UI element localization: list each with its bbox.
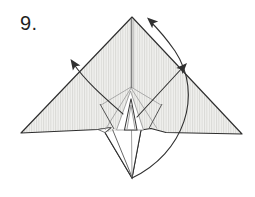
origami-step-diagram: 9. xyxy=(0,0,255,197)
left-arrowhead-icon xyxy=(71,59,81,71)
tail-flap xyxy=(105,130,141,179)
origami-figure xyxy=(0,0,255,197)
sweep-arrowhead-icon xyxy=(147,18,158,29)
tail-center-line xyxy=(132,129,133,178)
